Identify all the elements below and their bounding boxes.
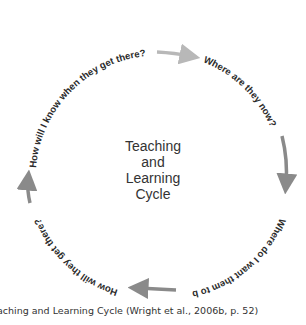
arrow-left <box>28 180 30 203</box>
center-label-line-3: Learning <box>126 170 181 186</box>
center-label-line-4: Cycle <box>135 186 170 202</box>
center-label-line-1: Teaching <box>125 138 181 154</box>
center-label-line-2: and <box>141 154 164 170</box>
figure-caption: aching and Learning Cycle (Wright et al.… <box>0 305 258 316</box>
arrow-bottom <box>138 288 176 290</box>
teaching-learning-cycle-diagram: Where are they now? Where do I want them… <box>0 0 306 325</box>
question-how-get-there: How will they get there? <box>32 217 119 299</box>
arrow-top <box>157 52 190 56</box>
question-where-now: Where are they now? <box>202 54 279 129</box>
arrow-right <box>282 136 287 184</box>
